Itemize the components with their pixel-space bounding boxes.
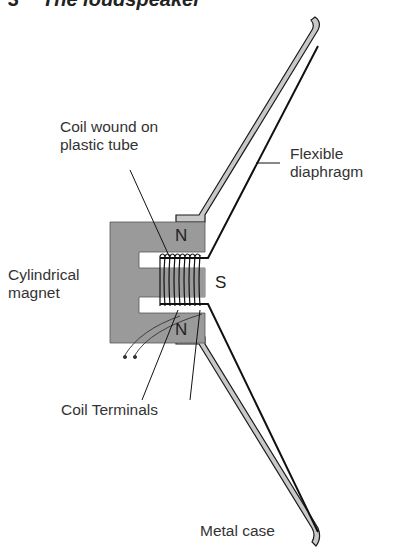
coil-label: Coil wound on plastic tube [60, 118, 158, 154]
coil-terminals-label: Coil Terminals [61, 401, 158, 419]
diaphragm-label: Flexible diaphragm [290, 145, 363, 181]
pole-north-bottom: N [175, 320, 187, 340]
cylindrical-magnet [110, 222, 205, 343]
magnet-label: Cylindrical magnet [8, 266, 80, 302]
pole-south-center: S [215, 273, 226, 293]
metal-case-label: Metal case [200, 522, 275, 540]
pole-north-top: N [175, 226, 187, 246]
